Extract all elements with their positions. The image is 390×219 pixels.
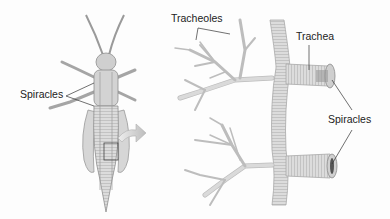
label-tracheoles: Tracheoles [171,13,223,24]
diagram-canvas: Spiracles Tracheoles Trachea Spiracles [0,0,390,219]
label-spiracles-right: Spiracles [328,114,371,125]
grasshopper-illustration [50,15,135,212]
tracheal-system-illustration [175,20,337,205]
label-trachea: Trachea [296,31,334,42]
label-spiracles-left: Spiracles [20,89,63,100]
